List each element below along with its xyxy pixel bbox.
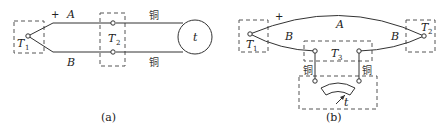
copper-label-bottom: 铜 xyxy=(149,57,159,68)
instrument-label: t xyxy=(193,31,198,44)
caption-b: (b) xyxy=(326,111,342,124)
polarity-plus-b: + xyxy=(275,11,283,22)
t3-subscript: 3 xyxy=(338,54,342,62)
t1-terminal xyxy=(248,32,252,36)
wire-a-label: A xyxy=(66,8,75,21)
polarity-plus: + xyxy=(51,9,59,20)
copper-label-top: 铜 xyxy=(149,10,159,21)
t2-subscript-b: 2 xyxy=(428,28,432,36)
copper-label-left: 铜 xyxy=(303,65,313,76)
t2-subscript: 2 xyxy=(116,39,120,47)
meter-box xyxy=(299,76,377,109)
meter-terminal-left xyxy=(313,79,317,83)
wire-b-label: B xyxy=(66,56,75,69)
thermocouple-diagrams: + A B T 1 T 2 铜 铜 t (a) + A B B T xyxy=(0,0,446,132)
hot-junction-terminal xyxy=(26,34,30,38)
meter-scale-icon xyxy=(321,83,355,95)
wire-b-right-label: B xyxy=(390,30,399,43)
t1-subscript: 1 xyxy=(25,44,29,52)
wire-a-arc-label: A xyxy=(335,18,344,31)
t3-terminal-left xyxy=(313,49,317,53)
t1-subscript-b: 1 xyxy=(253,45,257,53)
diagram-a: + A B T 1 T 2 铜 铜 t (a) xyxy=(14,8,212,124)
wire-b-left-label: B xyxy=(284,30,293,43)
wire-b-left xyxy=(250,34,315,51)
copper-label-right: 铜 xyxy=(362,65,372,76)
meter-terminal-right xyxy=(357,79,361,83)
meter-label: t xyxy=(344,96,349,109)
terminal-top xyxy=(111,21,115,25)
t3-terminal-right xyxy=(357,49,361,53)
terminal-bottom xyxy=(111,50,115,54)
t2-terminal xyxy=(422,34,426,38)
diagram-b: + A B B T 1 T 2 T 3 铜 铜 t (b) xyxy=(239,11,435,124)
caption-a: (a) xyxy=(101,111,116,124)
